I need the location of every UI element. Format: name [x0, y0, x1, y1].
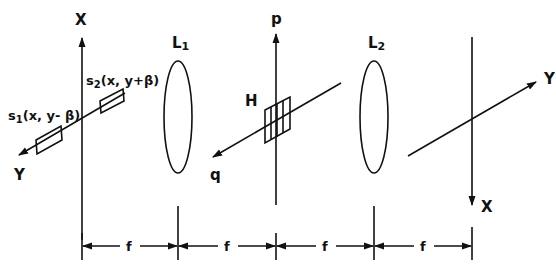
spacing-f-1: f — [126, 239, 132, 254]
lens-l2: L2 — [360, 34, 388, 173]
output-x-axis-label: X — [481, 198, 493, 216]
lens-l2-shape — [360, 61, 388, 173]
input-plane: X Y s2(x, y+β) s1(x, y- β) — [8, 11, 159, 240]
spacing-f-3: f — [322, 239, 328, 254]
spacing-f-4: f — [420, 239, 426, 254]
output-y-axis-label: Y — [543, 70, 556, 88]
source-s2-label: s2(x, y+β) — [86, 73, 159, 90]
svg-text:s2(x, y+β): s2(x, y+β) — [86, 73, 159, 90]
lens-l1-shape — [164, 61, 192, 173]
output-plane: X Y — [408, 37, 556, 216]
spacing-f-2: f — [224, 239, 230, 254]
input-x-axis-label: X — [75, 11, 87, 29]
fourier-p-axis-label: p — [271, 10, 282, 28]
source-s1-label: s1(x, y- β) — [8, 108, 80, 125]
lens-l1: L1 — [164, 34, 192, 173]
optical-4f-diagram: X Y s2(x, y+β) s1(x, y- β) L1 p q H — [0, 0, 556, 273]
lens-l2-label: L2 — [368, 34, 385, 53]
fourier-q-axis-label: q — [210, 166, 221, 184]
input-y-axis — [19, 93, 125, 155]
filter-h-grating — [265, 97, 290, 143]
spacing-dimensions: f f f f — [82, 206, 472, 260]
filter-h-label: H — [245, 92, 258, 110]
input-y-axis-label: Y — [13, 166, 26, 184]
fourier-plane: p q H — [210, 10, 341, 205]
svg-text:s1(x, y- β): s1(x, y- β) — [8, 108, 80, 125]
source-s1-aperture — [36, 126, 62, 154]
lens-l1-label: L1 — [172, 34, 189, 53]
